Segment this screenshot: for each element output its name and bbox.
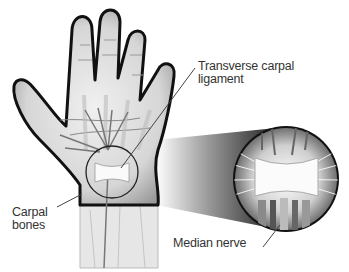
label-median-nerve: Median nerve — [173, 237, 246, 250]
label-transverse-carpal-ligament: Transverse carpal ligament — [198, 60, 294, 86]
magnified-carpal-tunnel — [233, 126, 339, 232]
label-carpal-bones: Carpal bones — [12, 206, 48, 232]
bones-pointer — [57, 194, 82, 207]
hand-illustration — [0, 0, 349, 272]
